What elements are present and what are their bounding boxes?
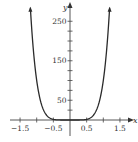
x-tick-label: −1.5 bbox=[11, 124, 29, 133]
x-axis-label: x bbox=[133, 116, 138, 125]
x-tick-label: 1.5 bbox=[114, 124, 126, 133]
curve-arrow-icon bbox=[108, 7, 112, 12]
y-tick-label: 250 bbox=[52, 17, 67, 26]
y-axis-label: y bbox=[62, 3, 68, 12]
curve-arrow-icon bbox=[28, 7, 32, 12]
y-tick-label: 150 bbox=[52, 56, 67, 65]
x-tick-label: 0.5 bbox=[81, 124, 93, 133]
polynomial-graph: −1.5−0.50.51.5 50150250 x y bbox=[0, 0, 138, 142]
x-tick-label: −0.5 bbox=[44, 124, 62, 133]
y-tick-label: 50 bbox=[57, 96, 67, 105]
y-axis-ticks: 50150250 bbox=[52, 17, 72, 110]
chart-svg: −1.5−0.50.51.5 50150250 x y bbox=[0, 0, 138, 142]
